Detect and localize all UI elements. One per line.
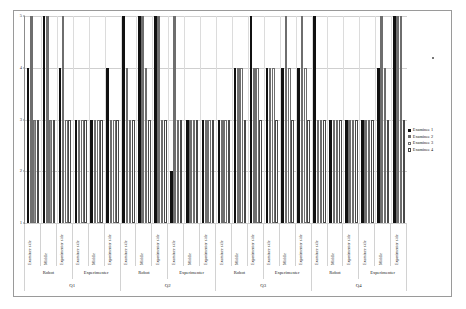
bar (259, 120, 262, 224)
bar (164, 120, 167, 224)
x-category-cell: Examinee side (24, 224, 40, 266)
x-category-cell: Examinee side (215, 224, 231, 266)
bar (75, 120, 78, 224)
bar (368, 120, 371, 224)
bar-group (328, 16, 344, 223)
category-separator (296, 16, 297, 223)
category-separator (152, 16, 153, 223)
legend-item[interactable]: Examinee 1 (408, 128, 454, 132)
bar (221, 120, 224, 224)
y-tick-label: 5 (20, 14, 22, 19)
bar-group (168, 16, 184, 223)
x-category-label: Examinee side (124, 240, 128, 265)
bar (400, 16, 403, 223)
bar-group (41, 16, 57, 223)
category-separator (248, 16, 249, 223)
bar (256, 68, 259, 223)
bar (244, 120, 247, 224)
bar (237, 68, 240, 223)
x-group-label: Experimenter (358, 266, 407, 279)
x-category-label: Middle (188, 253, 192, 265)
category-separator (73, 16, 74, 223)
bar (154, 16, 157, 223)
category-separator (375, 16, 376, 223)
bar (33, 120, 36, 224)
bar (62, 16, 65, 223)
bar (37, 120, 40, 224)
bar (333, 120, 336, 224)
x-category-label: Middle (140, 253, 144, 265)
bar (329, 120, 332, 224)
bar (196, 120, 199, 224)
bar (348, 120, 351, 224)
bar (90, 120, 93, 224)
bar (208, 120, 211, 224)
bar (84, 120, 87, 224)
x-category-label: Experimenter side (395, 234, 399, 265)
bar (345, 120, 348, 224)
category-separator (184, 16, 185, 223)
x-category-label: Middle (331, 253, 335, 265)
category-separator (264, 16, 265, 223)
bar (371, 120, 374, 224)
x-group-label: Robot (311, 266, 359, 279)
x-category-cell: Examinee side (263, 224, 279, 266)
x-group-label: Robot (24, 266, 72, 279)
bar (403, 120, 406, 224)
bar (148, 120, 151, 224)
category-separator (280, 16, 281, 223)
bar (253, 68, 256, 223)
x-group-label: Robot (120, 266, 168, 279)
bar (212, 120, 215, 224)
legend-item[interactable]: Examinee 3 (408, 141, 454, 145)
category-separator (216, 16, 217, 223)
bar (361, 120, 364, 224)
x-category-cell: Experimenter side (151, 224, 167, 266)
x-category-cell: Experimenter side (295, 224, 311, 266)
x-category-cell: Examinee side (120, 224, 136, 266)
bar (355, 120, 358, 224)
x-category-label: Middle (379, 253, 383, 265)
x-category-label: Examinee side (172, 240, 176, 265)
category-separator (312, 16, 313, 223)
legend-label: Examinee 3 (413, 141, 433, 145)
chart-legend: Examinee 1Examinee 2Examinee 3Examinee 4 (408, 128, 454, 152)
legend-swatch-icon (408, 142, 411, 145)
bar (269, 68, 272, 223)
bar (138, 16, 141, 223)
legend-item[interactable]: Examinee 4 (408, 148, 454, 152)
bar (393, 16, 396, 223)
x-category-cell: Experimenter side (342, 224, 358, 266)
bar (193, 120, 196, 224)
x-category-cell: Examinee side (72, 224, 88, 266)
category-separator (89, 16, 90, 223)
bar (281, 68, 284, 223)
bar-group (280, 16, 296, 223)
bar (46, 16, 49, 223)
bar (396, 16, 399, 223)
bar-group (232, 16, 248, 223)
bar (132, 120, 135, 224)
y-tick-label: 1 (20, 221, 22, 226)
bar (317, 120, 320, 224)
bar (145, 68, 148, 223)
legend-swatch-icon (408, 129, 411, 132)
category-separator (121, 16, 122, 223)
bar (129, 120, 132, 224)
bar (384, 68, 387, 223)
bar (224, 120, 227, 224)
bar (202, 120, 205, 224)
bar-group (359, 16, 375, 223)
bar (250, 16, 253, 223)
category-separator (327, 16, 328, 223)
bar (272, 68, 275, 223)
bar (65, 120, 68, 224)
bar (157, 16, 160, 223)
x-category-label: Middle (283, 253, 287, 265)
legend-item[interactable]: Examinee 2 (408, 135, 454, 139)
category-separator (391, 16, 392, 223)
bar-group (105, 16, 121, 223)
x-question-label: Q2 (120, 279, 216, 291)
x-category-label: Examinee side (315, 240, 319, 265)
bar (291, 120, 294, 224)
